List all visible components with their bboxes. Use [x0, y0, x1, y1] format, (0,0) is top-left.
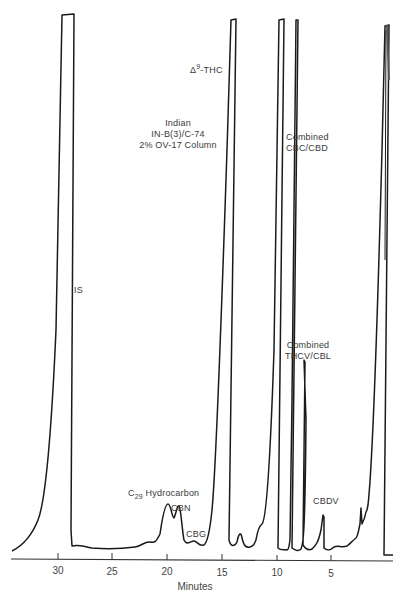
peak-label-thcv-cbl: Combined THCV/CBL [283, 340, 333, 362]
x-tick-25: 25 [106, 566, 117, 577]
c29-sub: 29 [135, 493, 143, 500]
x-tick-10: 10 [271, 567, 282, 578]
solvent-peak-inner-line [385, 30, 386, 260]
chromatogram-plot [0, 0, 404, 600]
peak-label-is: IS [74, 285, 83, 296]
x-tick-20: 20 [161, 566, 172, 577]
chromatogram-trace [12, 14, 393, 555]
peak-label-cbc-cbd: Combined CBC/CBD [286, 132, 329, 154]
peak-label-cbdv: CBDV [313, 496, 339, 507]
x-tick-30: 30 [52, 565, 63, 576]
thc-rest: -THC [200, 65, 222, 75]
peak-label-cbn: CBN [171, 503, 191, 514]
x-tick-5: 5 [328, 568, 334, 579]
peak-label-c29-hydrocarbon: C29 Hydrocarbon [128, 488, 199, 502]
x-axis [11, 559, 393, 561]
thcv-line-2: THCV/CBL [283, 351, 333, 362]
c29-rest: Hydrocarbon [143, 488, 199, 498]
cbc-line-1: Combined [286, 132, 329, 143]
title-line-3: 2% OV-17 Column [128, 140, 228, 151]
title-line-1: Indian [128, 118, 228, 129]
thcv-line-1: Combined [283, 340, 333, 351]
cbc-line-2: CBC/CBD [286, 143, 329, 154]
x-tick-15: 15 [216, 567, 227, 578]
chart-title: Indian IN-B(3)/C-74 2% OV-17 Column [128, 118, 228, 151]
peak-label-thc: Δ9-THC [190, 61, 223, 76]
x-axis-title: Minutes [177, 581, 212, 592]
c29-c: C [128, 488, 135, 498]
title-line-2: IN-B(3)/C-74 [128, 129, 228, 140]
peak-label-cbg: CBG [186, 529, 206, 540]
